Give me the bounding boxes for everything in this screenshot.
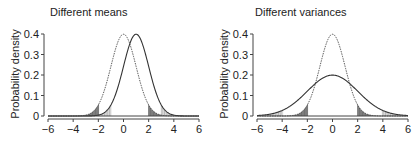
y-tick-label: 0.2	[24, 69, 39, 81]
chart-different-means: Different means Probability density 00.1…	[0, 0, 209, 146]
x-tick-label: 0	[120, 123, 126, 135]
x-tick-label: 6	[405, 123, 411, 135]
x-tick-label: 2	[146, 123, 152, 135]
plot-area: 00.10.20.30.4−6−4−20246	[209, 0, 418, 146]
y-tick-label: 0.1	[24, 90, 39, 102]
density-curve-N(1,1)	[48, 34, 199, 116]
x-tick-label: 6	[196, 123, 202, 135]
y-tick-label: 0.3	[233, 49, 248, 61]
chart-different-variances: Different variances Probability density …	[209, 0, 418, 146]
x-tick-label: −2	[301, 123, 314, 135]
y-tick-label: 0.2	[233, 69, 248, 81]
y-tick-label: 0.1	[233, 90, 248, 102]
y-tick-label: 0.4	[233, 28, 248, 40]
x-tick-label: −2	[92, 123, 105, 135]
density-curve-N(0,2)	[257, 75, 408, 115]
x-tick-label: −6	[251, 123, 264, 135]
y-tick-label: 0.3	[24, 49, 39, 61]
shaded-tail	[161, 104, 199, 116]
x-tick-label: −4	[276, 123, 289, 135]
x-tick-label: 4	[171, 123, 177, 135]
x-tick-label: 4	[380, 123, 386, 135]
x-tick-label: −6	[42, 123, 55, 135]
y-tick-label: 0.4	[24, 28, 39, 40]
density-curve-N(0,1)	[48, 34, 199, 116]
y-tick-label: 0	[33, 110, 39, 122]
x-tick-label: 0	[329, 123, 335, 135]
x-tick-label: 2	[355, 123, 361, 135]
y-tick-label: 0	[242, 110, 248, 122]
x-tick-label: −4	[67, 123, 80, 135]
plot-area: 00.10.20.30.4−6−4−20246	[0, 0, 209, 146]
shaded-tail	[148, 104, 199, 116]
